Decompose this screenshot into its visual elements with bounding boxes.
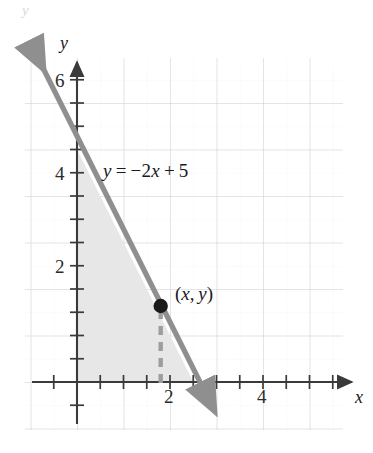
equation-annotation: y = −2x + 5	[103, 160, 189, 182]
equation-coefficient: 2	[142, 160, 152, 181]
point-label: (x, y)	[175, 283, 213, 305]
y-tick-label-2: 2	[55, 256, 65, 278]
coordinate-plane-svg	[0, 0, 373, 453]
equation-variable: x	[151, 160, 160, 181]
graph-figure: y y x 6 4 2 2 4 y = −2x + 5 (x, y)	[0, 0, 373, 453]
y-tick-label-6: 6	[55, 70, 65, 92]
equation-lhs: y	[103, 160, 112, 181]
point-label-close-paren: )	[207, 283, 213, 304]
point-label-comma: ,	[190, 283, 195, 304]
equation-minus: −	[131, 160, 142, 181]
y-tick-label-4: 4	[55, 163, 65, 185]
x-tick-label-2: 2	[164, 386, 174, 408]
equation-constant: 5	[179, 160, 189, 181]
equation-equals: =	[116, 160, 127, 181]
scan-artifact: y	[22, 2, 29, 19]
y-axis-label: y	[60, 33, 68, 54]
equation-plus: +	[164, 160, 175, 181]
point-label-x: x	[181, 283, 189, 304]
point-label-y: y	[198, 283, 206, 304]
x-tick-label-4: 4	[257, 386, 267, 408]
x-axis-label: x	[355, 387, 363, 408]
data-point-marker	[154, 299, 168, 313]
